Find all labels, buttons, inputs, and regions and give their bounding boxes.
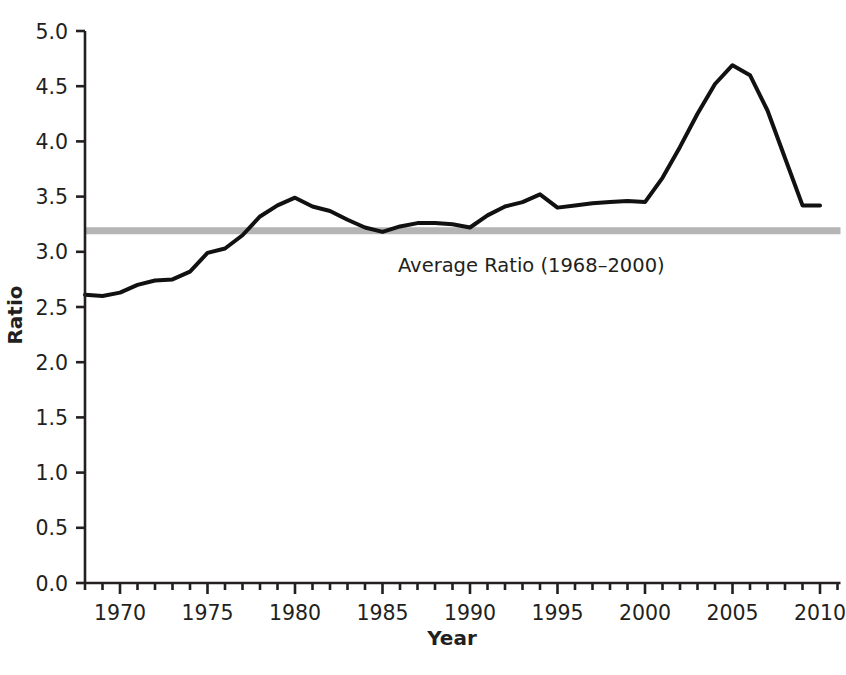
chart-figure: 0.00.51.01.52.02.53.03.54.04.55.0 197019… [0,0,846,675]
y-tick-label: 1.0 [35,461,68,485]
x-axis-title: Year [426,626,477,650]
y-axis-title: Ratio [3,285,27,344]
x-tick-label: 1990 [444,601,496,625]
average-ratio-annotation: Average Ratio (1968–2000) [398,254,665,277]
y-tick-label: 1.5 [35,406,68,430]
x-tick-label: 2010 [794,601,846,625]
x-axis-tick-labels: 197019751980198519901995200020052010 [94,601,846,625]
y-tick-label: 0.5 [35,516,68,540]
y-tick-label: 5.0 [35,20,68,44]
x-tick-label: 2005 [706,601,758,625]
y-tick-label: 2.0 [35,351,68,375]
y-tick-label: 4.0 [35,130,68,154]
x-tick-label: 2000 [619,601,671,625]
x-tick-label: 1985 [356,601,408,625]
y-tick-label: 2.5 [35,296,68,320]
x-tick-label: 1975 [181,601,233,625]
x-tick-label: 1995 [531,601,583,625]
y-tick-label: 3.0 [35,240,68,264]
y-tick-label: 0.0 [35,572,68,596]
ratio-line-chart: 0.00.51.01.52.02.53.03.54.04.55.0 197019… [0,0,846,675]
chart-background [0,0,846,675]
x-tick-label: 1980 [269,601,321,625]
y-tick-label: 4.5 [35,75,68,99]
x-tick-label: 1970 [94,601,146,625]
y-tick-label: 3.5 [35,185,68,209]
